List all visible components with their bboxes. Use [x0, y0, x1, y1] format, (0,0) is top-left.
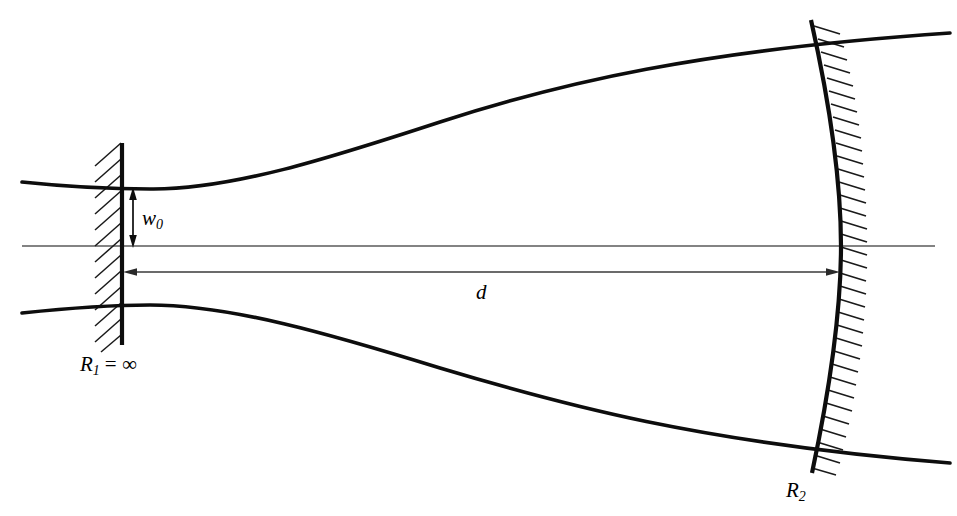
- waist-label-subscript: 0: [156, 217, 163, 233]
- optical-resonator-figure: w0 d R1= ∞ R2: [0, 0, 957, 516]
- waist-label-symbol: w: [142, 206, 156, 230]
- beam-envelope-lower: [22, 305, 950, 463]
- left-mirror-label-subscript: 1: [93, 363, 100, 379]
- left-mirror-label-relation: = ∞: [105, 352, 137, 376]
- left-mirror-label: R1= ∞: [80, 352, 137, 377]
- left-mirror-label-symbol: R: [80, 352, 93, 376]
- plane-mirror-hatching: [95, 143, 121, 352]
- right-mirror-label: R2: [786, 478, 806, 503]
- right-mirror-label-symbol: R: [786, 478, 799, 502]
- resonator-diagram-canvas: [0, 0, 957, 516]
- separation-dimension-arrow: [123, 268, 840, 276]
- waist-label: w0: [142, 206, 163, 231]
- separation-label-symbol: d: [476, 280, 487, 304]
- waist-dimension-arrow: [129, 187, 137, 248]
- separation-label: d: [476, 280, 487, 305]
- beam-envelope-upper: [22, 33, 950, 189]
- right-mirror-label-subscript: 2: [799, 489, 806, 505]
